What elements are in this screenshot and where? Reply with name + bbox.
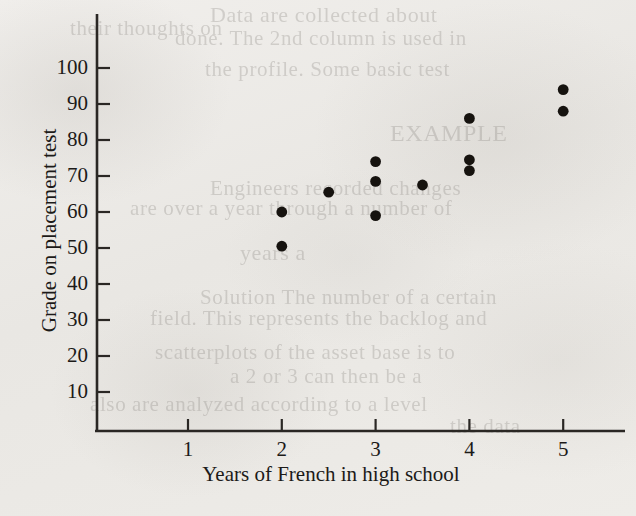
- y-axis-tick-label: 70: [42, 163, 88, 188]
- data-point: [558, 84, 569, 95]
- x-axis-ticks: [188, 419, 563, 431]
- x-axis-label: Years of French in high school: [96, 462, 566, 487]
- data-point: [558, 106, 569, 117]
- y-axis-ticks: [97, 68, 110, 392]
- scatter-plot: Grade on placement test Years of French …: [0, 0, 636, 516]
- x-axis-tick-label: 3: [361, 437, 391, 462]
- x-axis-tick-label: 1: [173, 437, 203, 462]
- plot-canvas: [0, 0, 636, 516]
- data-point: [417, 180, 428, 191]
- data-point: [276, 207, 287, 218]
- y-axis-tick-label: 20: [42, 343, 88, 368]
- x-axis-tick-label: 4: [454, 437, 484, 462]
- data-point: [370, 210, 381, 221]
- y-axis-tick-label: 80: [42, 127, 88, 152]
- data-point: [464, 165, 475, 176]
- y-axis-tick-label: 90: [42, 91, 88, 116]
- y-axis-tick-label: 40: [42, 271, 88, 296]
- data-point: [276, 241, 287, 252]
- data-point-group: [276, 84, 568, 251]
- data-point: [464, 154, 475, 165]
- x-axis-tick-label: 5: [548, 437, 578, 462]
- axis-lines: [95, 14, 625, 432]
- y-axis-tick-label: 30: [42, 307, 88, 332]
- x-axis-tick-label: 2: [267, 437, 297, 462]
- y-axis-tick-label: 60: [42, 199, 88, 224]
- data-point: [370, 176, 381, 187]
- data-point: [323, 187, 334, 198]
- y-axis-tick-label: 10: [42, 379, 88, 404]
- y-axis-tick-label: 50: [42, 235, 88, 260]
- y-axis-tick-label: 100: [42, 55, 88, 80]
- data-point: [370, 156, 381, 167]
- data-point: [464, 113, 475, 124]
